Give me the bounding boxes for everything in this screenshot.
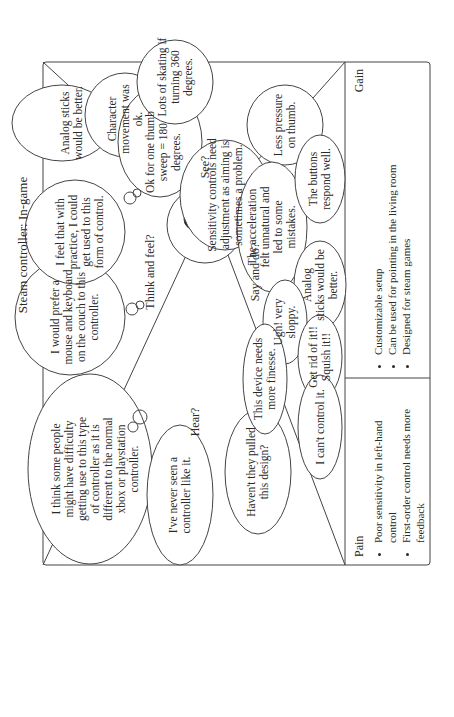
see-note-3: Lots of skating if turning 360 degrees. (156, 38, 195, 117)
hear-note-2: Haven't they pulled this design? (245, 427, 271, 517)
say-do-note-1: The acceleration felt unnatural and led … (246, 186, 298, 267)
say-do-note-6: I can't control it. (314, 389, 327, 465)
think-feel-note-3: I feel that with practice, I could get u… (54, 195, 106, 269)
pain-section: Pain Poor sensitivity in left-hand contr… (352, 387, 427, 557)
prompt-think-feel: Think and feel? (144, 234, 157, 309)
gain-item: Can be used for pointing in the living r… (385, 69, 399, 355)
say-do-note-2: The buttons respond well. (307, 148, 333, 210)
gain-item: Customizable setup (371, 69, 385, 355)
see-note-1: Character movement was ok. (106, 84, 145, 153)
gain-label: Gain (352, 69, 367, 369)
prompt-hear: Hear? (189, 408, 202, 437)
hear-note-1: I've never seen a controller like it. (167, 457, 193, 534)
diagram-title: Steam controller: In-game (16, 177, 29, 313)
pain-item: Poor sensitivity in left-hand control (371, 387, 399, 543)
gain-list: Customizable setup Can be used for point… (371, 69, 413, 369)
think-feel-note-4: Analog sticks would be better. (59, 86, 85, 160)
pain-item: First-order control needs more feedback (399, 387, 427, 543)
see-note-2: Ok for one thumb sweep = 180 degrees. (144, 111, 183, 193)
gain-item: Designed for steam games (399, 69, 413, 355)
pain-list: Poor sensitivity in left-hand control Fi… (371, 387, 427, 557)
say-do-note-7: This device needs more finesse. (252, 338, 278, 420)
gain-section: Gain Customizable setup Can be used for … (352, 69, 413, 369)
see-note-4: Sensitivity controls need adjustment as … (206, 138, 245, 252)
say-do-note-3: Analog sticks would be better. (301, 249, 340, 321)
see-note-5: Less pressure on thumb. (272, 94, 298, 156)
empathy-map: Steam controller: In-game Think and feel… (0, 0, 454, 717)
pain-label: Pain (352, 387, 367, 557)
think-feel-note-1: I think some people might have difficult… (50, 417, 141, 521)
think-feel-note-2: I would prefer a mouse and keyboard on t… (49, 269, 101, 364)
say-do-note-5: Get rid of it!! Squish it!! (307, 326, 333, 388)
